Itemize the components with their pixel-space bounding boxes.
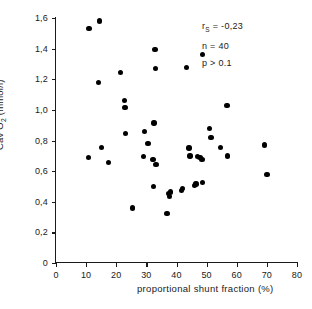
data-point: [167, 194, 172, 199]
x-tick-label: 30: [141, 270, 151, 280]
data-point: [208, 135, 213, 140]
x-tick-mark: 40: [177, 263, 178, 267]
data-point: [96, 80, 101, 85]
scatter-plot-figure: 00,20,40,60,81,01,21,41,6 01020304050607…: [0, 0, 312, 309]
y-tick-label: 0,6: [35, 166, 48, 176]
x-tick-mark: 50: [207, 263, 208, 267]
x-tick-mark: 80: [297, 263, 298, 267]
data-point: [225, 153, 230, 158]
x-tick-label: 50: [201, 270, 211, 280]
data-point: [153, 162, 158, 167]
data-point: [122, 98, 127, 103]
data-point: [153, 66, 158, 71]
y-tick-label: 0,4: [35, 197, 48, 207]
sample-size-annotation: n = 40: [202, 38, 243, 55]
data-point: [193, 181, 198, 186]
data-point: [151, 120, 156, 125]
x-tick-mark: 60: [237, 263, 238, 267]
data-point: [200, 180, 205, 185]
data-point: [264, 172, 269, 177]
data-point: [218, 145, 223, 150]
x-tick-label: 10: [81, 270, 91, 280]
x-tick-label: 20: [111, 270, 121, 280]
y-tick-mark: 0,2: [52, 232, 56, 233]
data-point: [86, 26, 91, 31]
data-point: [86, 155, 91, 160]
data-point: [187, 153, 192, 158]
data-point: [141, 154, 146, 159]
x-tick-mark: 30: [146, 263, 147, 267]
y-axis-label: Cav O2 (mmol/l): [0, 0, 7, 150]
x-tick-label: 60: [232, 270, 242, 280]
x-axis-label: proportional shunt fraction (%): [137, 283, 274, 294]
data-point: [122, 105, 127, 110]
y-axis-label-text: Cav O2 (mmol/l): [0, 79, 5, 150]
spearman-r-annotation: rS = -0,23: [202, 18, 243, 38]
y-tick-mark: 1,0: [52, 110, 56, 111]
data-point: [106, 160, 111, 165]
y-tick-label: 1,2: [35, 74, 48, 84]
data-point: [97, 18, 102, 23]
x-tick-mark: 70: [267, 263, 268, 267]
x-tick-mark: 0: [56, 263, 57, 267]
statistics-annotation: rS = -0,23 n = 40 p > 0.1: [202, 18, 243, 72]
y-tick-label: 1,4: [35, 44, 48, 54]
y-tick-label: 1,6: [35, 13, 48, 23]
y-tick-mark: 1,6: [52, 18, 56, 19]
y-tick-mark: 1,2: [52, 79, 56, 80]
data-point: [99, 145, 104, 150]
data-point: [145, 141, 150, 146]
data-point: [262, 142, 267, 147]
data-point: [164, 211, 169, 216]
y-tick-mark: 1,4: [52, 49, 56, 50]
p-value-annotation: p > 0.1: [202, 55, 243, 72]
y-tick-label: 1,0: [35, 105, 48, 115]
y-tick-label: 0,8: [35, 136, 48, 146]
data-point: [118, 70, 123, 75]
data-point: [123, 131, 128, 136]
x-tick-mark: 10: [86, 263, 87, 267]
data-point: [168, 189, 173, 194]
y-tick-mark: 0,6: [52, 171, 56, 172]
data-point: [180, 186, 185, 191]
x-tick-label: 70: [262, 270, 272, 280]
y-tick-mark: 0,8: [52, 141, 56, 142]
y-tick-label: 0: [43, 258, 48, 268]
data-point: [142, 129, 147, 134]
x-tick-label: 80: [292, 270, 302, 280]
data-point: [184, 65, 189, 70]
data-point: [207, 126, 212, 131]
data-point: [152, 47, 157, 52]
data-point: [199, 157, 204, 162]
plot-area: 00,20,40,60,81,01,21,41,6 01020304050607…: [56, 18, 297, 263]
x-tick-label: 40: [171, 270, 181, 280]
r-value: = -0,23: [210, 21, 243, 31]
x-tick-mark: 20: [116, 263, 117, 267]
y-tick-mark: 0,4: [52, 202, 56, 203]
data-point: [224, 103, 229, 108]
data-point: [186, 145, 191, 150]
data-point: [130, 205, 135, 210]
x-tick-label: 0: [53, 270, 58, 280]
data-point: [151, 184, 156, 189]
y-tick-label: 0,2: [35, 227, 48, 237]
